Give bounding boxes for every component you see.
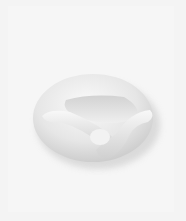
pretzel-sculpture <box>0 0 186 221</box>
pretzel-knot <box>90 129 110 145</box>
